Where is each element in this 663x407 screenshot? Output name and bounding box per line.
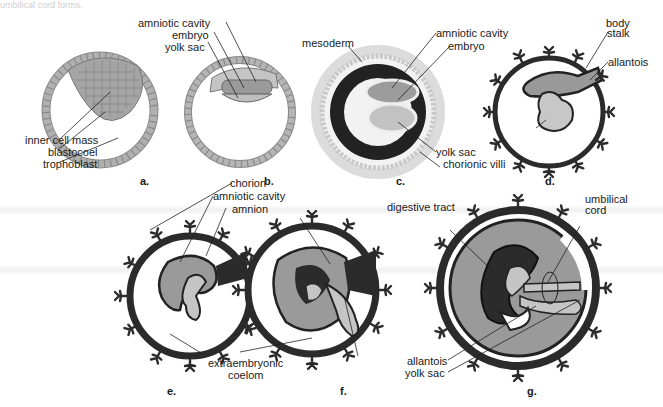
label-digestive-tract: digestive tract <box>387 201 455 213</box>
label-blastocoel: blastocoel <box>48 146 98 158</box>
label-yolk-sac-fg: yolk sac <box>405 367 445 379</box>
label-yolk-sac-b: yolk sac <box>165 41 205 53</box>
label-amniotic-cavity-b: amniotic cavity <box>138 17 210 29</box>
label-amniotic-cavity-e: amniotic cavity <box>213 190 285 202</box>
label-trophoblast: trophoblast <box>43 158 97 170</box>
panel-label-d: d. <box>545 175 555 187</box>
label-chorion: chorion <box>230 177 266 189</box>
panel-label-b: b. <box>264 175 274 187</box>
panel-f-allantois <box>233 211 391 369</box>
label-stalk: stalk <box>607 27 630 39</box>
label-mesoderm: mesoderm <box>302 37 354 49</box>
label-yolk-sac-c: yolk sac <box>436 146 476 158</box>
panel-g-umbilical-cord <box>425 195 611 381</box>
label-chorionic-villi: chorionic villi <box>443 158 505 170</box>
panel-label-e: e. <box>167 385 176 397</box>
panel-label-c: c. <box>396 175 405 187</box>
panel-c-mesoderm <box>316 33 450 174</box>
label-allantois-fg: allantois <box>407 355 447 367</box>
label-cord: cord <box>585 204 606 216</box>
panel-label-a: a. <box>140 175 149 187</box>
diagram-drawing <box>0 0 663 407</box>
panel-d-body-stalk <box>484 32 614 177</box>
label-amnion: amnion <box>232 203 268 215</box>
label-coelom: coelom <box>228 369 263 381</box>
panel-label-g: g. <box>527 385 537 397</box>
panel-label-f: f. <box>340 385 347 397</box>
label-amniotic-cavity-c: amniotic cavity <box>436 27 508 39</box>
embryo-development-figure: umbilical cord forms. <box>0 0 663 407</box>
label-inner-cell-mass: inner cell mass <box>25 134 98 146</box>
label-allantois-d: allantois <box>608 56 648 68</box>
label-extraembryonic: extraembryonic <box>208 357 283 369</box>
label-embryo-b: embryo <box>172 29 209 41</box>
label-embryo-c: embryo <box>448 40 485 52</box>
